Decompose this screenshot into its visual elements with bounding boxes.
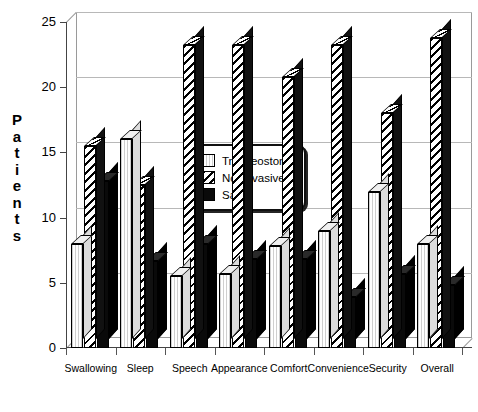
bar-side (442, 19, 451, 339)
bar-side (145, 166, 154, 339)
y-axis-title-letter: s (4, 228, 30, 245)
y-axis-tick-label: 0 (30, 341, 56, 354)
bar-face (269, 246, 281, 348)
bar-tracheostomy-security (368, 192, 380, 348)
bar-side (109, 162, 118, 339)
y-axis-title-letter: a (4, 129, 30, 146)
bar-tracheostomy-speech (170, 276, 182, 348)
bar-side (244, 26, 253, 339)
bar-side (195, 26, 204, 339)
bar-face (71, 244, 83, 348)
y-axis-title-letter: i (4, 162, 30, 179)
x-axis-tick-labels: SwallowingSleepSpeechAppearanceComfortCo… (66, 362, 478, 382)
bar-side (330, 212, 339, 339)
y-axis-title-letter: t (4, 211, 30, 228)
bar-side (393, 94, 402, 339)
bar-side (380, 173, 389, 339)
y-axis-title: P a t i e n t s (4, 112, 30, 244)
bar-side (294, 58, 303, 339)
bar-tracheostomy-sleep (120, 139, 132, 348)
y-axis-tick-label: 10 (30, 211, 56, 224)
x-axis-tick (462, 348, 463, 355)
x-axis-tick (165, 348, 166, 355)
x-axis-tick (363, 348, 364, 355)
bar-face (170, 276, 182, 348)
grid-line (76, 12, 472, 13)
y-axis-title-letter: P (4, 112, 30, 129)
bar-tracheostomy-overall (417, 244, 429, 348)
y-axis-tick-label: 5 (30, 276, 56, 289)
y-axis-title-letter: e (4, 178, 30, 195)
y-axis-title-letter: n (4, 195, 30, 212)
bar-face (318, 231, 330, 348)
y-axis-tick-label: 15 (30, 145, 56, 158)
y-axis-title-letter: t (4, 145, 30, 162)
bar-face (120, 139, 132, 348)
y-axis-tick-label: 20 (30, 80, 56, 93)
y-axis-tick-label: 25 (30, 15, 56, 28)
bar-tracheostomy-comfort (269, 246, 281, 348)
x-axis-tick (66, 348, 67, 355)
bar-tracheostomy-swallowing (71, 244, 83, 348)
bar-face (417, 244, 429, 348)
bar-side (343, 26, 352, 339)
bar-tracheostomy-appearance (219, 274, 231, 348)
x-axis-tick-label: Overall (405, 362, 471, 374)
bar-face (219, 274, 231, 348)
bar-tracheostomy-convenience (318, 231, 330, 348)
bar-face (368, 192, 380, 348)
bar-side (96, 127, 105, 339)
x-axis-tick (116, 348, 117, 355)
x-axis-tick (314, 348, 315, 355)
x-axis-tick (215, 348, 216, 355)
bar-side (132, 120, 141, 339)
bar-chart: P a t i e n t s 0510152025 SwallowingSle… (0, 0, 478, 412)
x-axis-tick (264, 348, 265, 355)
x-axis-tick (413, 348, 414, 355)
